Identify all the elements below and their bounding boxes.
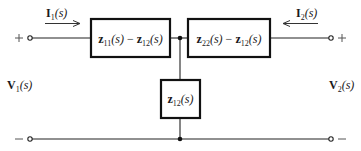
port1-plus-terminal	[28, 36, 32, 40]
port1-minus-terminal	[28, 137, 32, 141]
circuit-diagram: z11(s) − z12(s) z22(s) − z12(s) z12(s) I…	[0, 0, 361, 151]
port2-plus-terminal	[329, 36, 333, 40]
label-current-i1: I1(s)	[46, 6, 67, 22]
label-z12: z12(s)	[168, 92, 194, 108]
label-voltage-v2: V2(s)	[329, 78, 354, 94]
port2-plus-sign	[338, 34, 346, 42]
bottom-junction-node	[178, 137, 183, 142]
label-current-i2: I2(s)	[296, 6, 317, 22]
label-voltage-v1: V1(s)	[7, 78, 32, 94]
port2-minus-terminal	[329, 137, 333, 141]
port1-plus-sign	[15, 34, 23, 42]
top-junction-node	[178, 36, 183, 41]
